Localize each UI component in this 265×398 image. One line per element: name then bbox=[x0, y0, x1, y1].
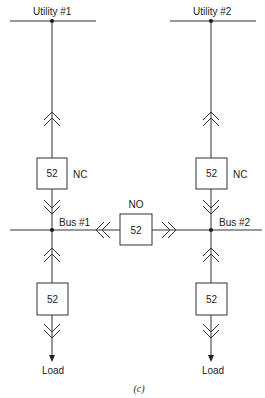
breaker-number: 52 bbox=[46, 168, 58, 179]
arrow-down-icon bbox=[49, 355, 55, 362]
breaker-state-label: NO bbox=[129, 199, 144, 210]
breaker-state-label: NC bbox=[73, 169, 87, 180]
right-feed-conductor bbox=[203, 21, 219, 158]
bus-1: Bus #1 bbox=[10, 217, 120, 238]
left-load-conductor: Load bbox=[42, 315, 64, 376]
load-1-label: Load bbox=[42, 365, 64, 376]
right-load-conductor: Load bbox=[202, 315, 224, 376]
feeder-breaker-1[interactable]: 52 bbox=[37, 283, 68, 315]
utility-2-label: Utility #2 bbox=[193, 6, 232, 17]
left-bus-to-feeder bbox=[44, 230, 60, 283]
breaker-number: 52 bbox=[130, 225, 142, 236]
figure-caption: (c) bbox=[133, 383, 145, 395]
bus-2: Bus #2 bbox=[152, 217, 262, 238]
left-feed-conductor bbox=[44, 21, 60, 158]
right-bus-to-feeder bbox=[203, 230, 219, 283]
right-main-to-bus bbox=[203, 189, 219, 230]
utility-1-source: Utility #1 bbox=[10, 6, 96, 23]
tie-breaker[interactable]: NO 52 bbox=[120, 199, 152, 245]
main-breaker-1[interactable]: 52 NC bbox=[37, 158, 87, 189]
left-main-to-bus bbox=[44, 189, 60, 230]
bus-2-label: Bus #2 bbox=[219, 217, 251, 228]
utility-2-source: Utility #2 bbox=[170, 6, 256, 23]
bus-1-label: Bus #1 bbox=[59, 217, 91, 228]
breaker-number: 52 bbox=[206, 168, 218, 179]
breaker-number: 52 bbox=[47, 294, 59, 305]
breaker-state-label: NC bbox=[233, 169, 247, 180]
breaker-number: 52 bbox=[206, 294, 218, 305]
arrow-down-icon bbox=[208, 355, 214, 362]
one-line-diagram: Utility #1 52 NC Bus #1 NO bbox=[0, 0, 265, 398]
utility-1-label: Utility #1 bbox=[33, 6, 72, 17]
feeder-breaker-2[interactable]: 52 bbox=[196, 283, 227, 315]
main-breaker-2[interactable]: 52 NC bbox=[196, 158, 247, 189]
load-2-label: Load bbox=[202, 365, 224, 376]
